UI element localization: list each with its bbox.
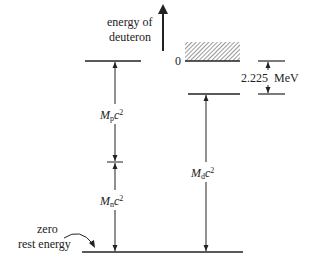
axis-label-line2: deuteron [109, 30, 151, 44]
proton-rest-energy-label: Mpc2 [99, 108, 123, 123]
deuteron-energy-diagram: energy of deuteron 0 2.225MeV Mpc2 Mnc2 [0, 0, 315, 268]
zero-label: 0 [175, 54, 181, 68]
neutron-rest-energy-label: Mnc2 [99, 194, 123, 209]
zero-rest-label-line2: rest energy [18, 237, 71, 251]
zero-rest-label-line1: zero [37, 222, 58, 236]
energy-axis-arrow-icon [158, 4, 168, 51]
binding-energy-label: 2.225MeV [241, 71, 299, 85]
axis-label-line1: energy of [107, 15, 152, 29]
deuteron-rest-energy-label: Mdc2 [190, 166, 214, 181]
continuum-hatched-region [185, 42, 240, 61]
